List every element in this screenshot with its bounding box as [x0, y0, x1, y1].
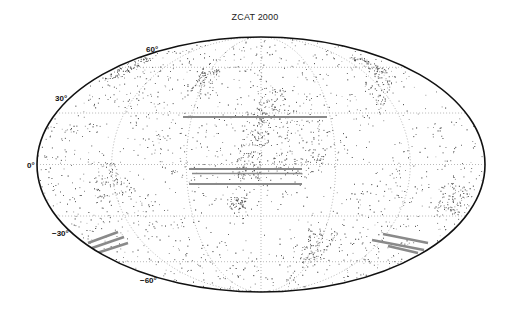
lat-label-60: 60°	[146, 45, 158, 54]
lat-label-minus60: −60°	[140, 276, 157, 285]
galaxy-points	[38, 38, 483, 293]
mollweide-plot: 60° 30° 0° −30° −60°	[0, 0, 510, 311]
lat-label-0: 0°	[27, 161, 35, 170]
survey-stripes	[88, 117, 428, 253]
lat-label-minus30: −30°	[52, 229, 69, 238]
lat-label-30: 30°	[55, 94, 67, 103]
